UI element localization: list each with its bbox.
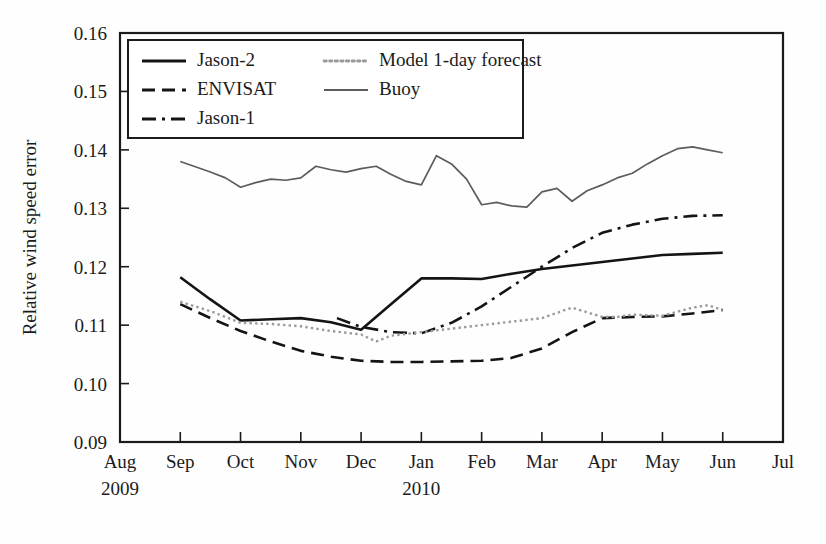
legend-label-envisat: ENVISAT: [197, 78, 277, 99]
legend-label-jason-1: Jason-1: [197, 107, 255, 128]
x-axis-year-label: 2010: [402, 478, 440, 499]
y-tick-label: 0.11: [74, 315, 107, 336]
y-tick-label: 0.10: [74, 374, 107, 395]
x-tick-label: Apr: [587, 451, 617, 472]
x-tick-label: Oct: [227, 451, 255, 472]
x-tick-label: Mar: [526, 451, 558, 472]
x-tick-label: Nov: [284, 451, 317, 472]
y-tick-label: 0.15: [74, 81, 107, 102]
x-tick-label: Jun: [710, 451, 737, 472]
x-tick-label: Aug: [104, 451, 137, 472]
chart-page: 0.090.100.110.120.130.140.150.16 AugSepO…: [0, 0, 826, 544]
y-tick-label: 0.09: [74, 432, 107, 453]
y-tick-label: 0.12: [74, 257, 107, 278]
x-axis-year-label: 2009: [101, 478, 139, 499]
y-axis-title: Relative wind speed error: [19, 139, 40, 335]
y-axis-title-text: Relative wind speed error: [19, 139, 40, 335]
y-tick-label: 0.14: [74, 140, 108, 161]
legend-label-jason-2: Jason-2: [197, 49, 255, 70]
legend-label-model-1-day-forecast: Model 1-day forecast: [379, 49, 542, 70]
x-tick-label: Sep: [166, 451, 195, 472]
x-tick-label: Feb: [467, 451, 496, 472]
x-tick-label: Jul: [772, 451, 794, 472]
chart-legend[interactable]: Jason-2Model 1-day forecastENVISATBuoyJa…: [128, 40, 542, 138]
x-tick-label: May: [645, 451, 680, 472]
legend-label-buoy: Buoy: [379, 78, 421, 99]
y-tick-label: 0.13: [74, 198, 107, 219]
x-tick-label: Dec: [346, 451, 377, 472]
x-tick-label: Jan: [409, 451, 435, 472]
y-tick-label: 0.16: [74, 23, 107, 44]
wind-speed-error-line-chart: 0.090.100.110.120.130.140.150.16 AugSepO…: [0, 0, 826, 544]
